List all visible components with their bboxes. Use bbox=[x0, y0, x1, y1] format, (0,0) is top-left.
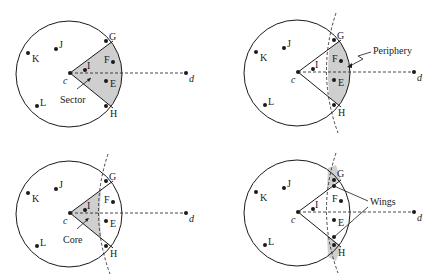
diagram-canvas: c d K J L I F E G H Sector c d K bbox=[0, 0, 435, 280]
panel-core: c d K J L I F E G H Core bbox=[16, 154, 195, 274]
label-E: E bbox=[338, 77, 344, 88]
label-G: G bbox=[337, 30, 344, 41]
label-L: L bbox=[40, 237, 46, 248]
label-E: E bbox=[110, 78, 116, 89]
label-I: I bbox=[315, 199, 318, 210]
label-c: c bbox=[63, 75, 68, 86]
label-K: K bbox=[32, 53, 40, 64]
annotation-sector: Sector bbox=[60, 94, 86, 105]
label-H: H bbox=[110, 108, 117, 119]
label-c: c bbox=[291, 74, 296, 85]
label-c: c bbox=[63, 215, 68, 226]
label-G: G bbox=[337, 168, 344, 179]
label-J: J bbox=[59, 179, 63, 190]
label-J: J bbox=[59, 39, 63, 50]
panel-sector: c d K J L I F E G H Sector bbox=[16, 20, 195, 130]
label-c: c bbox=[291, 214, 296, 225]
label-F: F bbox=[104, 54, 110, 65]
annotation-wings: Wings bbox=[370, 196, 396, 207]
label-L: L bbox=[268, 236, 274, 247]
annotation-core: Core bbox=[63, 234, 83, 245]
label-I: I bbox=[87, 200, 90, 211]
label-F: F bbox=[104, 194, 110, 205]
label-G: G bbox=[109, 171, 116, 182]
periphery-pointer bbox=[350, 52, 371, 66]
label-K: K bbox=[32, 193, 40, 204]
label-I: I bbox=[315, 59, 318, 70]
label-H: H bbox=[338, 247, 345, 258]
label-d: d bbox=[417, 212, 423, 223]
annotation-periphery: Periphery bbox=[373, 45, 412, 56]
panel-wings: c d K J L I F E G H Wings bbox=[244, 153, 423, 273]
label-d: d bbox=[189, 73, 195, 84]
points bbox=[26, 179, 188, 248]
label-I: I bbox=[87, 60, 90, 71]
label-F: F bbox=[332, 193, 338, 204]
label-d: d bbox=[189, 213, 195, 224]
label-F: F bbox=[332, 53, 338, 64]
label-J: J bbox=[287, 178, 291, 189]
label-K: K bbox=[260, 52, 268, 63]
label-L: L bbox=[268, 96, 274, 107]
label-H: H bbox=[338, 107, 345, 118]
label-L: L bbox=[40, 97, 46, 108]
panel-periphery: c d K J L I F E G H Periphery bbox=[244, 13, 423, 133]
label-E: E bbox=[338, 217, 344, 228]
sector-edge-lower bbox=[298, 212, 341, 247]
label-K: K bbox=[260, 192, 268, 203]
label-E: E bbox=[110, 218, 116, 229]
wings-pointer-upper bbox=[334, 186, 368, 201]
label-J: J bbox=[287, 38, 291, 49]
label-G: G bbox=[109, 31, 116, 42]
label-H: H bbox=[110, 248, 117, 259]
label-d: d bbox=[417, 72, 423, 83]
